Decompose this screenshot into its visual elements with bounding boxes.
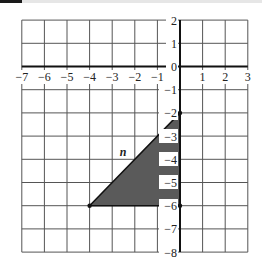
x-tick-label: 3 <box>245 70 251 84</box>
y-tick-label: 0 <box>171 60 177 74</box>
y-tick-label: −6 <box>164 199 177 213</box>
x-tick-label: 1 <box>200 70 206 84</box>
x-tick-label: −6 <box>38 70 51 84</box>
y-tick-label: 2 <box>171 14 177 28</box>
x-tick-label: −4 <box>83 70 96 84</box>
y-tick-label: −8 <box>164 246 177 260</box>
y-tick-labels: 2 1 0 −1 −2 −3 −4 −5 −6 −7 −8 <box>159 13 178 260</box>
x-tick-label: −3 <box>106 70 119 84</box>
x-tick-label: −5 <box>61 70 74 84</box>
y-tick-label: −7 <box>164 222 177 236</box>
x-tick-label: −1 <box>151 70 164 84</box>
vertex-point <box>87 204 91 208</box>
y-tick-label: −5 <box>164 176 177 190</box>
x-tick-label: −2 <box>128 70 141 84</box>
coordinate-plane: −7 −6 −5 −4 −3 −2 −1 1 2 3 2 1 0 −1 −2 −… <box>0 0 262 274</box>
x-tick-labels: −7 −6 −5 −4 −3 −2 −1 1 2 3 <box>11 70 253 84</box>
y-tick-label: −2 <box>164 106 177 120</box>
y-tick-label: 1 <box>171 37 177 51</box>
x-tick-label: 2 <box>222 70 228 84</box>
y-tick-label: −4 <box>164 153 177 167</box>
grid-lines <box>22 20 248 252</box>
y-tick-label: −3 <box>164 130 177 144</box>
y-tick-label: −1 <box>164 83 177 97</box>
x-tick-label: −7 <box>15 70 28 84</box>
shape-label-n: n <box>120 145 127 159</box>
